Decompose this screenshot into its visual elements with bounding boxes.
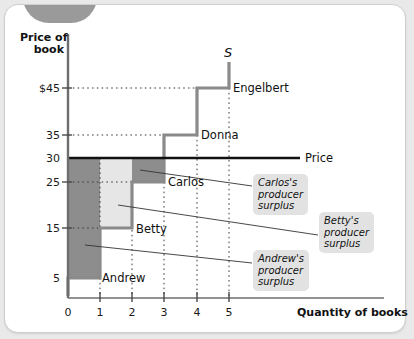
seller-label-betty: Betty [136, 222, 167, 236]
y-tick-label-25: 25 [26, 176, 60, 189]
x-tick-label-2: 2 [122, 306, 142, 319]
y-tick-label-35: 35 [26, 129, 60, 142]
seller-label-carlos: Carlos [168, 175, 204, 189]
x-tick-label-1: 1 [90, 306, 110, 319]
x-tick-label-5: 5 [219, 306, 239, 319]
seller-label-donna: Donna [201, 128, 239, 142]
callout-carlos-producer-surplus: Carlos's producer surplus [253, 174, 308, 215]
y-axis-title-line2: book [20, 44, 64, 56]
x-tick-label-0: 0 [58, 306, 78, 319]
price-line-label: Price [305, 151, 333, 165]
supply-curve-label: S [224, 45, 232, 60]
callout-betty-producer-surplus: Betty's producer surplus [319, 212, 374, 253]
y-tick-label-45: $45 [26, 82, 60, 95]
seller-label-engelbert: Engelbert [233, 81, 289, 95]
carlos-surplus-region [132, 158, 164, 182]
x-tick-marks [100, 292, 229, 302]
x-tick-label-3: 3 [154, 306, 174, 319]
betty-surplus-region [100, 158, 132, 228]
y-tick-label-5: 5 [26, 272, 60, 285]
seller-label-andrew: Andrew [102, 271, 145, 285]
y-tick-label-30: 30 [26, 152, 60, 165]
y-tick-label-15: 15 [26, 222, 60, 235]
callout-andrew-producer-surplus: Andrew's producer surplus [253, 250, 309, 291]
x-axis-title: Quantity of books [297, 307, 408, 319]
andrew-surplus-region [68, 158, 100, 278]
x-tick-label-4: 4 [187, 306, 207, 319]
